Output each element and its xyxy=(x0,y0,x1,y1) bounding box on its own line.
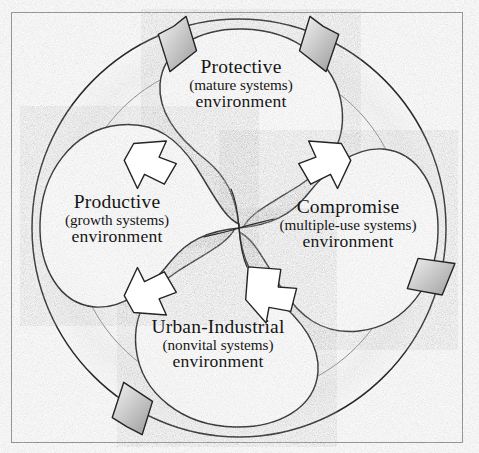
diagram-page: Protective (mature systems) environment … xyxy=(0,0,479,453)
diagram-canvas xyxy=(0,0,479,453)
